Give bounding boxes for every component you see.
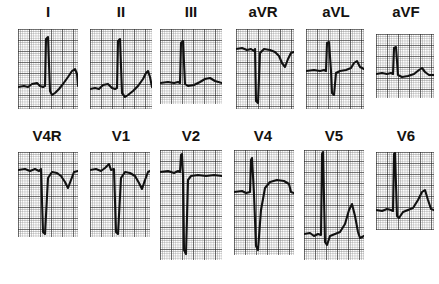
lead-label-v1: V1 <box>90 128 152 143</box>
lead-label-v5: V5 <box>304 128 364 143</box>
lead-label-iii: III <box>160 4 222 19</box>
ecg-strip-v4 <box>234 150 294 255</box>
lead-panel-v5: V5 <box>0 0 439 284</box>
ecg-strip-v4r <box>18 152 78 237</box>
lead-label-avl: aVL <box>306 4 366 19</box>
lead-panel-v4r: V4R <box>0 0 439 284</box>
ecg-strip-avl <box>306 29 364 109</box>
ecg-strip-avf <box>376 34 434 98</box>
ecg-trace-v5 <box>304 152 364 245</box>
lead-label-v4: V4 <box>232 128 294 143</box>
lead-panel-i: I <box>0 0 439 284</box>
lead-panel-ii: II <box>0 0 439 284</box>
ecg-trace-v1 <box>90 164 150 234</box>
ecg-strip-v5 <box>304 150 364 260</box>
ecg-trace-avf <box>376 47 434 77</box>
ecg-trace-v2 <box>160 154 222 254</box>
ecg-strip-ii <box>90 29 152 109</box>
lead-label-ii: II <box>90 4 152 19</box>
lead-panel-v1: V1 <box>0 0 439 284</box>
lead-label-v2: V2 <box>160 128 222 143</box>
ecg-trace-v4r <box>18 169 78 234</box>
lead-panel-avl: aVL <box>0 0 439 284</box>
lead-panel-v4: V4 <box>0 0 439 284</box>
ecg-strip-iii <box>160 29 222 104</box>
lead-label-v6: V6 <box>376 128 436 143</box>
ecg-trace-i <box>18 37 78 95</box>
ecg-trace-v4 <box>234 158 294 250</box>
ecg-strip-i <box>18 29 78 109</box>
ecg-trace-iii <box>160 41 222 86</box>
ecg-12-lead-sheet: IIIIIIaVRaVLaVFV4RV1V2V4V5V6 <box>0 0 439 284</box>
lead-label-avr: aVR <box>232 4 294 19</box>
ecg-trace-avl <box>306 42 364 95</box>
lead-label-v4r: V4R <box>14 128 80 143</box>
ecg-strip-avr <box>236 29 294 109</box>
ecg-strip-v2 <box>160 150 222 260</box>
lead-panel-avr: aVR <box>0 0 439 284</box>
ecg-strip-v1 <box>90 152 150 237</box>
lead-label-i: I <box>18 4 78 19</box>
lead-label-avf: aVF <box>376 4 436 19</box>
lead-panel-avf: aVF <box>0 0 439 284</box>
lead-panel-iii: III <box>0 0 439 284</box>
lead-panel-v2: V2 <box>0 0 439 284</box>
ecg-strip-v6 <box>376 152 434 230</box>
ecg-trace-ii <box>90 39 152 97</box>
ecg-trace-avr <box>236 48 294 103</box>
ecg-trace-v6 <box>376 153 434 218</box>
lead-panel-v6: V6 <box>0 0 439 284</box>
